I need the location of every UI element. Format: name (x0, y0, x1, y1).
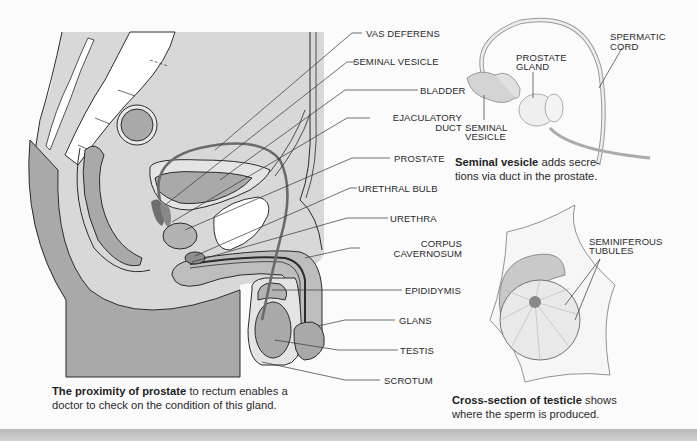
label-prostate-gland-line2: GLAND (516, 62, 549, 72)
caption-seminal-line2: tions via duct in the prostate. (455, 170, 597, 182)
caption-testicle-line2: where the sperm is produced. (452, 408, 599, 420)
label-corpus-cavernosum-line2: CAVERNOSUM (360, 249, 462, 259)
label-seminal-vesicle: SEMINAL VESICLE (353, 57, 439, 67)
sagittal-section (29, 32, 324, 377)
label-urethra: URETHRA (390, 214, 437, 224)
caption-seminal-bold: Seminal vesicle (455, 156, 538, 168)
testis-cross-section (500, 280, 580, 360)
caption-testicle-bold: Cross-section of testicle (452, 394, 582, 406)
caption-testicle-inset: Cross-section of testicle shows where th… (452, 394, 617, 421)
label-epididymis: EPIDIDYMIS (405, 286, 461, 296)
label-scrotum: SCROTUM (384, 376, 433, 386)
bottom-page-edge (0, 429, 697, 441)
caption-testicle-line1: shows (582, 394, 617, 406)
testicle-inset (490, 205, 615, 382)
anatomy-illustration (0, 0, 697, 441)
label-vas-deferens: VAS DEFERENS (366, 29, 440, 39)
testis-shape (255, 302, 291, 358)
epididymis-shape (258, 283, 287, 300)
label-testis: TESTIS (400, 346, 434, 356)
caption-main-bold: The proximity of prostate (52, 385, 186, 397)
label-prostate: PROSTATE (394, 154, 445, 164)
label-seminal-vesicle-inset-line2: VESICLE (465, 132, 506, 142)
caption-seminal-inset: Seminal vesicle adds secre- tions via du… (455, 156, 600, 183)
label-seminiferous-line2: TUBULES (589, 246, 634, 256)
urethral-bulb-shape (185, 252, 205, 264)
glans-shape (294, 322, 324, 360)
label-ejaculatory-duct-line2: DUCT (365, 123, 462, 133)
caption-main-line1: to rectum enables a (186, 385, 287, 397)
label-spermatic-cord-line2: CORD (610, 42, 638, 52)
caption-main: The proximity of prostate to rectum enab… (52, 385, 288, 412)
label-bladder: BLADDER (420, 86, 466, 96)
caption-seminal-line1: adds secre- (538, 156, 600, 168)
label-glans: GLANS (399, 316, 432, 326)
caption-main-line2: doctor to check on the condition of this… (52, 399, 277, 411)
label-urethral-bulb: URETHRAL BULB (358, 184, 438, 194)
